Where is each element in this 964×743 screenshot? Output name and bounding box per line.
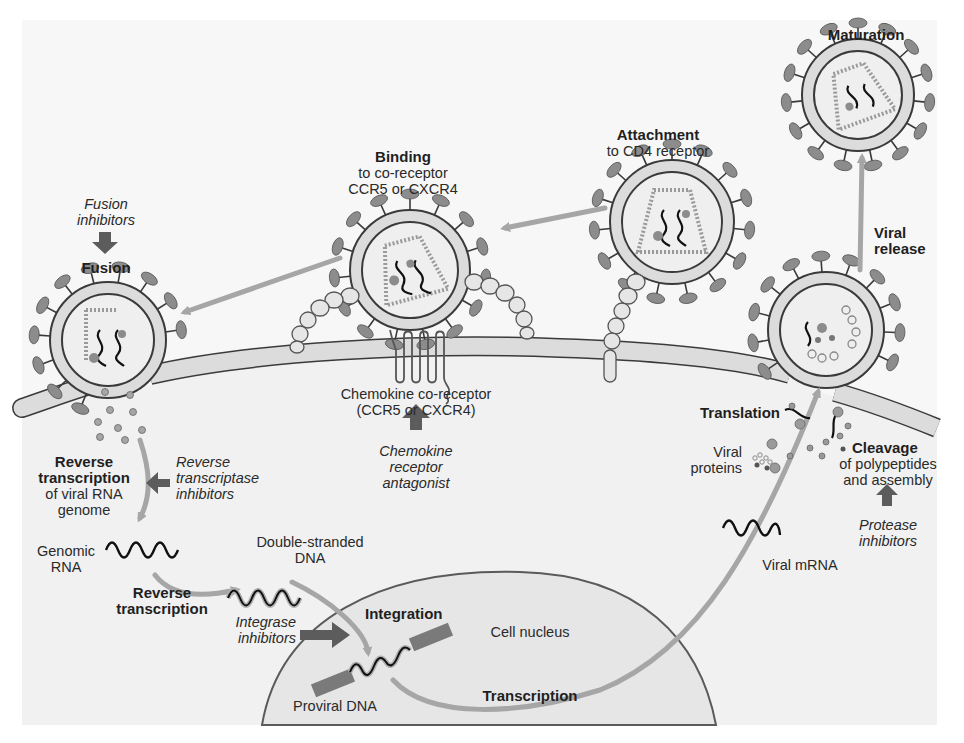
- label-fusion-inhibitors-1: Fusion: [84, 196, 128, 212]
- label-viral-release-1: Viral: [874, 224, 906, 241]
- label-rt-title2: transcription: [116, 600, 208, 617]
- diagram-svg: Attachment to CD4 receptor Maturation Bi…: [0, 0, 964, 743]
- label-rt-genome-title1: Reverse: [55, 453, 113, 470]
- label-genomic-rna-1: Genomic: [37, 543, 95, 559]
- label-chemokine-antagonist-1: Chemokine: [379, 443, 452, 459]
- label-fusion-inhibitors-2: inhibitors: [77, 212, 135, 228]
- label-rt-genome-sub2: genome: [58, 502, 110, 518]
- label-rt-inhibitors-2: transcriptase: [176, 470, 259, 486]
- fusion-inhibitor-arrow: [92, 232, 118, 254]
- label-dsdna-1: Double-stranded: [256, 534, 363, 550]
- label-viral-mrna: Viral mRNA: [762, 557, 838, 573]
- virion-attachment: [589, 139, 756, 305]
- label-rt-title1: Reverse: [133, 584, 191, 601]
- label-attachment-title: Attachment: [617, 126, 700, 143]
- label-cleavage-title: Cleavage: [852, 439, 918, 456]
- label-fusion: Fusion: [81, 259, 130, 276]
- label-rt-genome-title2: transcription: [38, 469, 130, 486]
- label-coreceptor-2: (CCR5 or CXCR4): [356, 402, 475, 418]
- label-binding-sub1: to co-receptor: [358, 165, 448, 181]
- label-coreceptor-1: Chemokine co-receptor: [341, 386, 492, 402]
- arrow-viral-release: [860, 158, 862, 270]
- label-viral-release-2: release: [874, 240, 926, 257]
- label-protease-inhibitors-2: inhibitors: [859, 533, 917, 549]
- label-integrase-inhibitors-1: Integrase: [236, 614, 296, 630]
- label-viral-proteins-1: Viral: [713, 444, 742, 460]
- label-dsdna-2: DNA: [295, 550, 326, 566]
- label-protease-inhibitors-1: Protease: [859, 517, 917, 533]
- label-binding-title: Binding: [375, 148, 431, 165]
- label-transcription: Transcription: [482, 687, 577, 704]
- label-cleavage-sub2: and assembly: [843, 472, 933, 488]
- label-genomic-rna-2: RNA: [51, 559, 82, 575]
- label-rt-inhibitors-1: Reverse: [176, 454, 230, 470]
- virion-budding: [747, 251, 906, 388]
- label-attachment-sub: to CD4 receptor: [607, 143, 710, 159]
- label-cleavage-sub1: of polypeptides: [839, 456, 937, 472]
- label-binding-sub2: CCR5 or CXCR4: [348, 181, 458, 197]
- label-maturation: Maturation: [828, 26, 905, 43]
- virion-binding: [329, 189, 492, 351]
- hiv-lifecycle-figure: Attachment to CD4 receptor Maturation Bi…: [0, 0, 964, 743]
- label-rt-inhibitors-3: inhibitors: [176, 486, 234, 502]
- label-proviral-dna: Proviral DNA: [293, 698, 377, 714]
- label-integrase-inhibitors-2: inhibitors: [238, 630, 296, 646]
- label-rt-genome-sub1: of viral RNA: [45, 486, 123, 502]
- label-translation: Translation: [700, 404, 780, 421]
- label-integration: Integration: [365, 605, 443, 622]
- label-cell-nucleus: Cell nucleus: [491, 624, 570, 640]
- label-chemokine-antagonist-3: antagonist: [383, 475, 451, 491]
- label-chemokine-antagonist-2: receptor: [389, 459, 443, 475]
- label-viral-proteins-2: proteins: [690, 460, 742, 476]
